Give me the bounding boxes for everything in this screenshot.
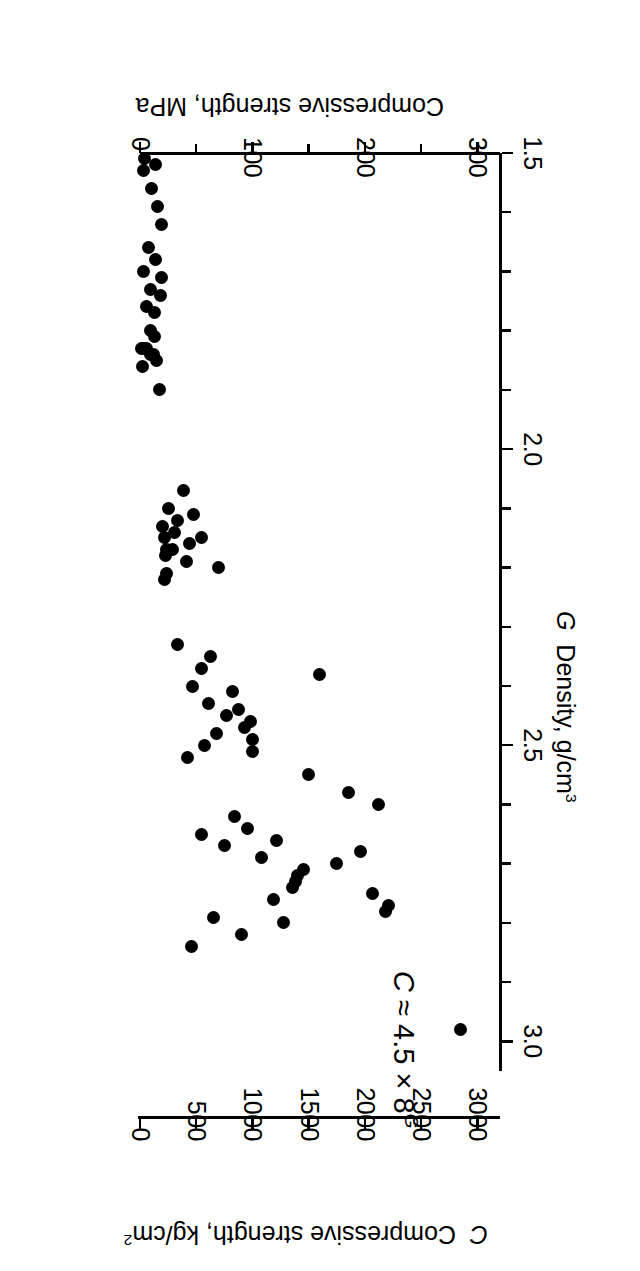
tick-density-major [502,152,513,155]
tick-label-density-1.5: 1.5 [518,136,547,169]
tick-label-kgcm2-500: 500 [182,1101,211,1141]
axis-title-density-superscript: 3 [563,794,580,803]
tick-label-kgcm2-1000: 1000 [238,1087,267,1141]
axis-title-density-text: Density, g/cm [552,644,580,794]
data-point [270,834,283,847]
data-point [454,1023,467,1036]
data-point [188,508,201,521]
tick-label-density-3.0: 3.0 [518,1025,547,1058]
data-point [354,845,367,858]
tick-density-minor [502,803,511,806]
data-point [379,905,392,918]
tick-label-mpa-200: 200 [351,137,380,177]
data-point [372,798,385,811]
data-point [155,218,168,231]
data-point [186,680,199,693]
data-point [137,265,150,278]
axis-title-kgcm2-symbol: C [470,1221,488,1249]
data-point [185,940,198,953]
tick-label-kgcm2-3000: 3000 [463,1087,492,1141]
data-point [220,709,233,722]
data-point [181,751,194,764]
annotation-lead-symbol: C [388,971,420,992]
tick-density-major [502,448,513,451]
data-point [154,289,167,302]
tick-density-minor [502,922,511,925]
plot-area: 01002003000500100015002000250030001.52.0… [0,0,640,1271]
data-point [267,893,280,906]
data-point [159,549,172,562]
data-point [162,502,175,515]
tick-density-minor [502,626,511,629]
data-point [210,727,223,740]
data-point [218,839,231,852]
tick-density-minor [502,566,511,569]
annotation-times-sign: × [388,1072,420,1089]
data-point [314,668,327,681]
data-point [180,555,193,568]
data-point [155,271,168,284]
tick-density-minor [502,507,511,510]
data-point [287,881,300,894]
tick-density-minor [502,389,511,392]
tick-density-minor [502,329,511,332]
tick-label-kgcm2-2000: 2000 [351,1087,380,1141]
data-point [233,703,246,716]
data-point [195,662,208,675]
data-point [212,561,225,574]
data-point [145,182,158,195]
tick-label-kgcm2-0: 0 [126,1128,155,1141]
data-point [330,857,343,870]
tick-label-mpa-0: 0 [126,137,155,150]
annotation-exponent: G [401,1114,422,1129]
data-point [152,200,165,213]
tick-density-minor [502,862,511,865]
data-point [150,354,163,367]
data-point [198,739,211,752]
data-point [255,851,268,864]
tick-mpa-minor [307,144,310,153]
data-point [246,745,259,758]
axis-title-kgcm2-text: Compressive strength, kg/cm [132,1221,456,1249]
data-point [246,733,259,746]
data-point [183,537,196,550]
figure-canvas: 01002003000500100015002000250030001.52.0… [0,0,640,1271]
data-point [177,484,190,497]
axis-title-strength-mpa: Compressive strength, MPa [136,92,444,121]
data-point [195,531,208,544]
tick-label-mpa-300: 300 [463,137,492,177]
tick-label-kgcm2-1500: 1500 [294,1087,323,1141]
data-point [149,158,162,171]
data-point [158,573,171,586]
tick-density-major [502,744,513,747]
tick-density-minor [502,685,511,688]
data-point [235,928,248,941]
tick-density-minor [502,270,511,273]
data-point [342,786,355,799]
data-point [202,697,215,710]
axis-title-kgcm2-gap [456,1221,463,1249]
tick-label-density-2.5: 2.5 [518,729,547,762]
data-point [226,685,239,698]
tick-density-major [502,1040,513,1043]
axis-title-density-symbol: G [552,611,580,630]
axis-title-density: G Density, g/cm3 [551,611,580,803]
tick-density-minor [502,211,511,214]
annotation-approx-sign: ≈ [388,1000,420,1016]
data-point [195,828,208,841]
axis-title-kgcm2-superscript: 2 [124,1232,133,1249]
data-point [278,916,291,929]
data-point [136,360,149,373]
data-point [149,253,162,266]
data-point [238,721,251,734]
tick-label-mpa-100: 100 [238,137,267,177]
data-point [242,822,255,835]
data-point [171,514,184,527]
fit-equation-annotation: C ≈ 4.5 × 8G [387,971,422,1128]
axis-title-strength-mpa-text: Compressive strength, MPa [136,93,444,121]
annotation-base: 8 [388,1097,420,1113]
data-point [137,164,150,177]
annotation-coefficient: 4.5 [388,1024,420,1064]
tick-label-density-2.0: 2.0 [518,433,547,466]
data-point [302,768,315,781]
